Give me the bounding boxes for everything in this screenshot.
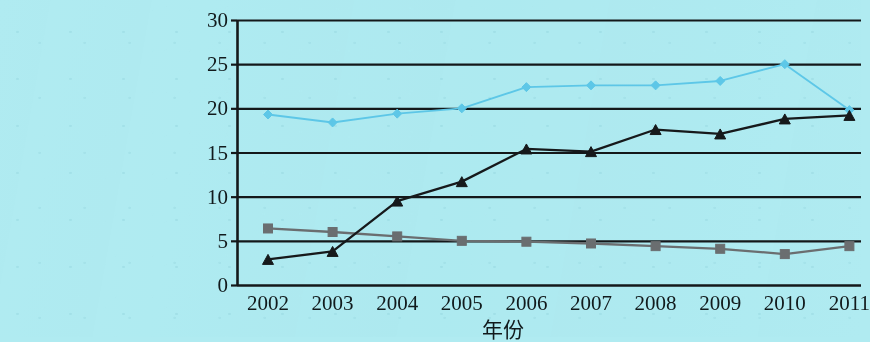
y-axis-tick-label: 5	[218, 230, 229, 251]
x-axis-tick-label: 2009	[699, 293, 741, 314]
y-axis-tick-label: 20	[207, 98, 228, 119]
x-axis-tick-label: 2011	[829, 293, 870, 314]
series-line	[268, 64, 849, 122]
data-point-marker	[845, 242, 854, 251]
data-point-marker	[264, 110, 273, 119]
y-axis-tick-label: 10	[207, 186, 228, 207]
x-axis-tick-label: 2008	[635, 293, 677, 314]
data-point-marker	[780, 250, 789, 259]
data-point-marker	[587, 81, 596, 90]
x-axis-tick-label: 2002	[247, 293, 289, 314]
x-axis-tick-label: 2005	[441, 293, 483, 314]
data-point-marker	[264, 224, 273, 233]
data-point-marker	[457, 104, 466, 113]
data-point-marker	[716, 76, 725, 85]
data-point-marker	[393, 232, 402, 241]
data-point-marker	[457, 236, 466, 245]
y-axis-tick-label: 30	[207, 10, 228, 31]
data-point-marker	[328, 118, 337, 127]
y-axis-tick-label: 15	[207, 142, 228, 163]
series-diamond	[264, 60, 854, 127]
x-axis-tick-label: 2004	[376, 293, 418, 314]
data-point-marker	[651, 242, 660, 251]
x-axis-tick-label: 2007	[570, 293, 612, 314]
data-point-marker	[716, 244, 725, 253]
y-axis-tick-label: 0	[218, 275, 229, 296]
data-point-marker	[651, 81, 660, 90]
data-point-marker	[393, 109, 402, 118]
series-line	[268, 115, 849, 259]
gridlines	[237, 21, 861, 286]
x-axis-title: 年份	[482, 320, 524, 341]
y-axis-ticks	[231, 21, 237, 286]
data-point-marker	[587, 239, 596, 248]
data-point-marker	[522, 83, 531, 92]
data-point-marker	[522, 237, 531, 246]
x-axis-tick-label: 2006	[505, 293, 547, 314]
data-point-marker	[328, 228, 337, 237]
x-axis-tick-label: 2003	[312, 293, 354, 314]
x-axis-tick-label: 2010	[764, 293, 806, 314]
y-axis-tick-label: 25	[207, 54, 228, 75]
